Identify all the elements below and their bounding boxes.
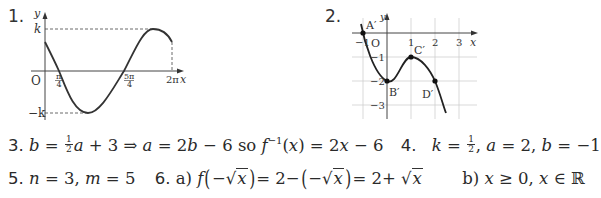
- q2-y-tick-neg3: −3: [370, 100, 385, 111]
- q2-x-tick-neg1: −1: [355, 37, 370, 48]
- q3-text: b = 12a + 3 ⇒ a = 2b − 6 so f−1(x) = 2x …: [29, 136, 389, 155]
- q5-number: 5.: [8, 169, 24, 188]
- q2-point-b-label: B′: [389, 86, 400, 99]
- q5-text: n = 3, m = 5: [29, 169, 135, 188]
- q4-text: k = 12, a = 2, b = −1: [432, 136, 601, 155]
- q6-number: 6.: [155, 169, 171, 188]
- q6-part-a-label: a): [176, 169, 192, 188]
- q2-point-c-label: C′: [414, 44, 425, 57]
- q2-y-tick-neg2: −2: [370, 76, 385, 87]
- q4-number: 4.: [401, 136, 417, 155]
- q6-part-b-text: x ≥ 0, x ∈ ℝ: [484, 169, 584, 188]
- q2-x-axis-label: x: [470, 36, 477, 49]
- q2-y-tick-neg1: −1: [370, 52, 385, 63]
- q2-y-axis-label: y: [379, 11, 386, 22]
- q2-point-d-label: D′: [422, 88, 434, 101]
- answer-line-3-4: 3. b = 12a + 3 ⇒ a = 2b − 6 so f−1(x) = …: [8, 135, 601, 156]
- q2-origin-label: O: [371, 37, 380, 50]
- q2-x-tick-2: 2: [432, 37, 438, 48]
- q6-part-b-label: b): [462, 169, 479, 188]
- q3-number: 3.: [8, 136, 24, 155]
- q2-point-a-label: A′: [365, 19, 377, 32]
- q6-part-a-text: f(−√x)= 2−(−√x)= 2+ √x: [197, 169, 428, 188]
- q2-x-tick-3: 3: [456, 37, 462, 48]
- answer-line-5-6: 5. n = 3, m = 5 n = 3, m = 5 6. a) f(−√x…: [8, 166, 585, 191]
